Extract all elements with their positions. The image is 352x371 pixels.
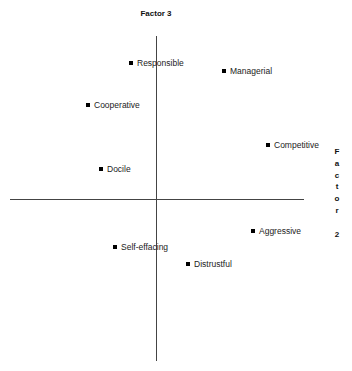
- square-marker-icon: [251, 229, 255, 233]
- square-marker-icon: [266, 143, 270, 147]
- x-axis-line: [10, 199, 304, 200]
- point-label: Aggressive: [259, 226, 301, 236]
- square-marker-icon: [99, 167, 103, 171]
- point-label: Competitive: [274, 140, 319, 150]
- point-label: Docile: [107, 164, 131, 174]
- square-marker-icon: [222, 69, 226, 73]
- point-label: Distrustful: [194, 259, 232, 269]
- point-label: Self-effacing: [121, 242, 168, 252]
- y-axis-label-char: a: [332, 158, 342, 170]
- point-label: Managerial: [230, 66, 272, 76]
- y-axis-label-char: r: [332, 205, 342, 217]
- y-axis-label-char: c: [332, 170, 342, 182]
- y-axis-label-char: F: [332, 146, 342, 158]
- y-axis-line: [156, 36, 157, 361]
- square-marker-icon: [86, 103, 90, 107]
- point-label: Responsible: [137, 58, 184, 68]
- square-marker-icon: [186, 262, 190, 266]
- y-axis-label-char: o: [332, 193, 342, 205]
- point-label: Cooperative: [94, 100, 140, 110]
- y-axis-label: F a c t o r 2: [332, 146, 342, 240]
- square-marker-icon: [129, 61, 133, 65]
- y-axis-label-char: 2: [332, 229, 342, 241]
- y-axis-label-char: [332, 217, 342, 229]
- chart-title: Factor 3: [0, 9, 312, 18]
- square-marker-icon: [113, 245, 117, 249]
- y-axis-label-char: t: [332, 181, 342, 193]
